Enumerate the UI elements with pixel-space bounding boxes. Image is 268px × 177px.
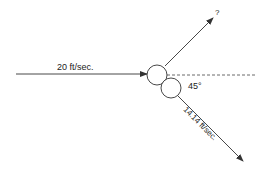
incoming-velocity-label: 20 ft/sec. — [57, 62, 94, 72]
angle-label: 45° — [188, 81, 202, 91]
known-velocity-label: 14.14 ft/sec. — [182, 105, 219, 142]
collision-diagram: 20 ft/sec. ? 45° 14.14 ft/sec. — [0, 0, 268, 177]
ball-2 — [161, 78, 181, 98]
unknown-velocity-arrow — [165, 18, 213, 66]
unknown-velocity-label: ? — [215, 8, 220, 17]
